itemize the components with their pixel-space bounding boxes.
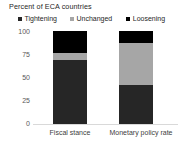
x-axis-line <box>33 124 178 125</box>
bar-segment-loosening[interactable] <box>119 31 153 43</box>
bar-monetary-policy-rate[interactable] <box>119 31 153 124</box>
y-axis-tick-100: 100 <box>0 28 30 35</box>
plot-area: 100 75 50 25 0 Fiscal stance Monetary po… <box>0 0 184 146</box>
bar-segment-loosening[interactable] <box>53 31 87 53</box>
y-axis-tick-25: 25 <box>0 97 30 104</box>
x-axis-label-monetary-policy-rate: Monetary policy rate <box>101 129 181 136</box>
chart-container: Percent of ECA countries Tightening Unch… <box>0 0 184 146</box>
bar-segment-tightening[interactable] <box>53 60 87 124</box>
y-axis-tick-0: 0 <box>0 120 30 127</box>
bar-segment-unchanged[interactable] <box>119 43 153 85</box>
bar-fiscal-stance[interactable] <box>53 31 87 124</box>
y-axis-tick-75: 75 <box>0 51 30 58</box>
bar-segment-tightening[interactable] <box>119 85 153 124</box>
x-axis-label-fiscal-stance: Fiscal stance <box>35 129 105 136</box>
y-axis-tick-50: 50 <box>0 74 30 81</box>
